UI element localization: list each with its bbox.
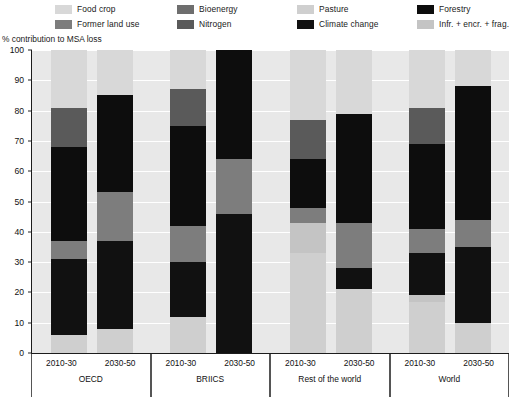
y-tick-label-50: 50: [14, 197, 24, 207]
legend-item-nitrogen[interactable]: Nitrogen: [177, 17, 297, 32]
bar-segment-forestry: [336, 114, 372, 223]
x-period-label: 2010-30: [405, 358, 436, 368]
bar-segment-climate-change: [455, 247, 491, 323]
plot-area: [31, 50, 509, 353]
x-group-name: OECD: [32, 374, 150, 384]
legend-item-infr-encr-frag[interactable]: Infr. + encr. + frag.: [417, 17, 510, 32]
x-period-label: 2030-50: [105, 358, 136, 368]
legend-swatch-climate-change: [297, 20, 314, 29]
y-tick-label-60: 60: [14, 166, 24, 176]
x-period-label: 2030-50: [463, 358, 494, 368]
x-group-name: World: [391, 374, 509, 384]
bar-segment-food-crop: [455, 50, 491, 86]
x-period-label: 2010-30: [46, 358, 77, 368]
bar-segment-nitrogen: [409, 108, 445, 144]
x-group-world: 2010-302030-50World: [390, 354, 510, 397]
x-group-periods: 2010-302030-50: [152, 358, 270, 368]
bar-segment-food-crop: [51, 50, 87, 108]
bar-briics-2030-50[interactable]: [216, 50, 252, 353]
plot-wrapper: 0102030405060708090100 2010-302030-50OEC…: [0, 45, 513, 397]
x-period-label: 2030-50: [224, 358, 255, 368]
legend-swatch-forestry: [417, 5, 434, 14]
bar-world-2010-30[interactable]: [409, 50, 445, 353]
bar-segment-forestry: [290, 159, 326, 207]
bar-oecd-2030-50[interactable]: [97, 50, 133, 353]
legend-label-forestry: Forestry: [439, 5, 471, 14]
x-group-periods: 2010-302030-50: [391, 358, 509, 368]
y-tick-label-10: 10: [14, 318, 24, 328]
y-tick-label-30: 30: [14, 257, 24, 267]
bar-segment-pasture: [51, 335, 87, 353]
legend-item-forestry[interactable]: Forestry: [417, 2, 510, 17]
bar-segment-former-land-use: [97, 192, 133, 240]
bar-segment-forestry: [455, 86, 491, 219]
bar-briics-2010-30[interactable]: [170, 50, 206, 353]
bar-segment-pasture: [336, 289, 372, 353]
bar-segment-nitrogen: [290, 120, 326, 159]
bar-oecd-2010-30[interactable]: [51, 50, 87, 353]
bar-segment-infr-encr-frag: [409, 295, 445, 301]
bar-segment-climate-change: [51, 259, 87, 335]
legend-label-climate-change: Climate change: [319, 20, 379, 29]
bar-rest-of-the-world-2030-50[interactable]: [336, 50, 372, 353]
bar-segment-former-land-use: [336, 223, 372, 268]
legend-item-former-land-use[interactable]: Former land use: [55, 17, 177, 32]
bar-segment-climate-change: [97, 241, 133, 329]
bar-rest-of-the-world-2010-30[interactable]: [290, 50, 326, 353]
legend-swatch-bioenergy: [177, 5, 194, 14]
y-tick-label-0: 0: [19, 348, 24, 358]
bar-segment-food-crop: [97, 50, 133, 95]
chart-root: Food cropBioenergyPastureForestryFormer …: [0, 0, 513, 397]
legend-swatch-pasture: [297, 5, 314, 14]
bar-segment-former-land-use: [290, 208, 326, 223]
bars-layer: [32, 50, 509, 353]
x-group-name: Rest of the world: [271, 374, 389, 384]
bar-group-oecd: [32, 50, 152, 353]
bar-segment-food-crop: [336, 50, 372, 114]
legend-label-bioenergy: Bioenergy: [199, 5, 238, 14]
legend-swatch-infr-encr-frag: [417, 20, 434, 29]
bar-segment-former-land-use: [51, 241, 87, 259]
bar-segment-food-crop: [409, 50, 445, 108]
bar-segment-forestry: [409, 144, 445, 229]
legend-item-climate-change[interactable]: Climate change: [297, 17, 417, 32]
y-axis-title: % contribution to MSA loss: [2, 34, 102, 44]
bar-segment-pasture: [97, 329, 133, 353]
legend-item-pasture[interactable]: Pasture: [297, 2, 417, 17]
legend-item-food-crop[interactable]: Food crop: [55, 2, 177, 17]
legend-item-bioenergy[interactable]: Bioenergy: [177, 2, 297, 17]
x-group-periods: 2010-302030-50: [271, 358, 389, 368]
bar-segment-nitrogen: [51, 108, 87, 147]
bar-segment-nitrogen: [170, 89, 206, 125]
y-tick-label-40: 40: [14, 227, 24, 237]
legend-swatch-nitrogen: [177, 20, 194, 29]
x-period-label: 2030-50: [344, 358, 375, 368]
bar-segment-food-crop: [290, 50, 326, 120]
bar-group-world: [391, 50, 510, 353]
x-period-label: 2010-30: [285, 358, 316, 368]
bar-group-briics: [152, 50, 272, 353]
legend-label-former-land-use: Former land use: [77, 20, 139, 29]
y-tick-label-80: 80: [14, 106, 24, 116]
bar-segment-forestry: [51, 147, 87, 241]
bar-group-rest-of-the-world: [271, 50, 391, 353]
legend-label-food-crop: Food crop: [77, 5, 116, 14]
chart-legend: Food cropBioenergyPastureForestryFormer …: [55, 2, 510, 32]
bar-segment-food-crop: [170, 50, 206, 89]
bar-segment-infr-encr-frag: [290, 223, 326, 253]
bar-segment-pasture: [455, 323, 491, 353]
bar-segment-forestry: [216, 50, 252, 159]
x-group-oecd: 2010-302030-50OECD: [31, 354, 151, 397]
bar-segment-former-land-use: [409, 229, 445, 253]
bar-segment-forestry: [97, 95, 133, 192]
bar-segment-climate-change: [216, 214, 252, 353]
bar-segment-former-land-use: [455, 220, 491, 247]
x-group-briics: 2010-302030-50BRIICS: [151, 354, 271, 397]
legend-label-pasture: Pasture: [319, 5, 349, 14]
x-group-name: BRIICS: [152, 374, 270, 384]
bar-segment-pasture: [409, 302, 445, 354]
bar-segment-climate-change: [336, 268, 372, 289]
bar-segment-climate-change: [409, 253, 445, 295]
legend-swatch-former-land-use: [55, 20, 72, 29]
bar-world-2030-50[interactable]: [455, 50, 491, 353]
